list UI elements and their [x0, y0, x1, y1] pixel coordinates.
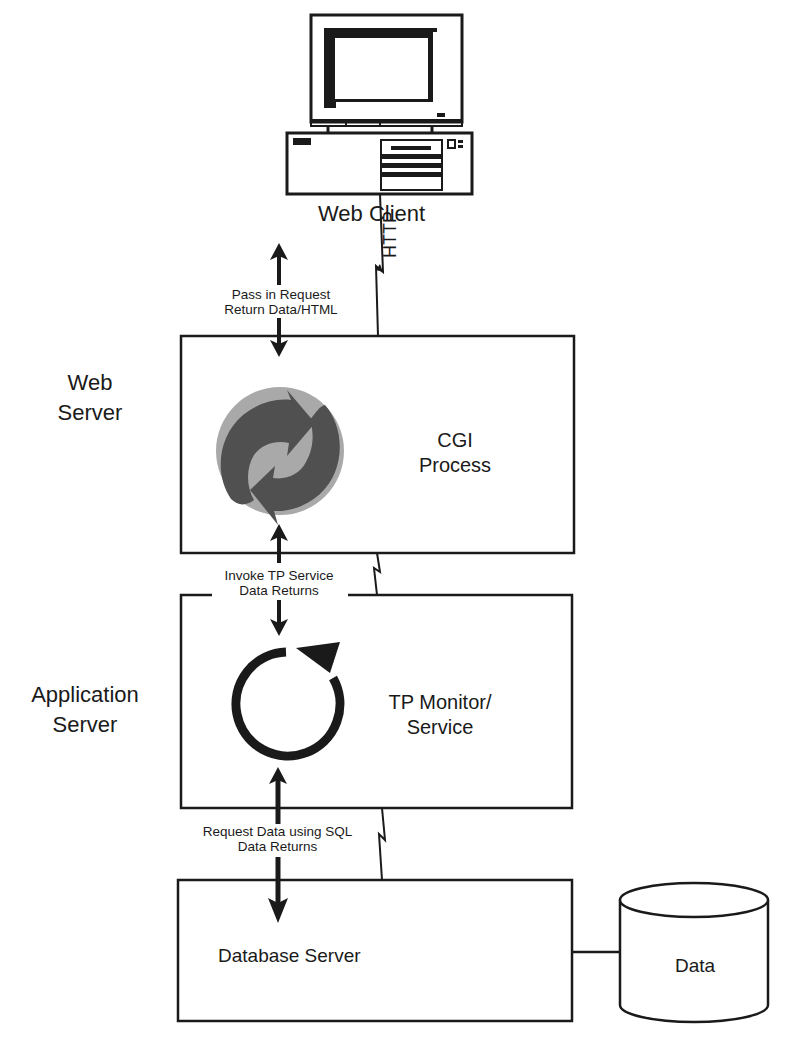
- web-server-side-label-line1: Web: [30, 368, 150, 398]
- app-to-db-link-line: [379, 808, 385, 880]
- cgi-process-label-line2: Process: [400, 453, 510, 478]
- architecture-diagram: [0, 0, 794, 1044]
- http-label: HTTP: [380, 198, 400, 258]
- connection-label-web-app-line1: Invoke TP Service: [213, 568, 345, 583]
- connection-label-web-app-line2: Data Returns: [213, 583, 345, 598]
- application-server-side-label-line1: Application: [10, 680, 160, 710]
- web-server-side-label: Web Server: [30, 368, 150, 427]
- connection-label-web-app: Invoke TP Service Data Returns: [213, 568, 345, 598]
- data-store-label: Data: [660, 955, 730, 976]
- tp-monitor-label: TP Monitor/ Service: [375, 690, 505, 740]
- connection-label-app-db-line1: Request Data using SQL: [190, 824, 365, 839]
- tp-monitor-label-line2: Service: [375, 715, 505, 740]
- cgi-process-label-line1: CGI: [400, 428, 510, 453]
- circular-loop-arrow-icon: [236, 642, 340, 756]
- web-client-label: Web Client: [318, 202, 425, 227]
- web-to-app-link-line: [374, 553, 380, 595]
- recycle-arrows-icon: [216, 387, 344, 525]
- cgi-process-label: CGI Process: [400, 428, 510, 478]
- connection-label-app-db: Request Data using SQL Data Returns: [190, 824, 365, 854]
- application-server-side-label-line2: Server: [10, 710, 160, 740]
- database-cylinder-icon: [572, 883, 768, 1022]
- web-server-side-label-line2: Server: [30, 398, 150, 428]
- tp-monitor-label-line1: TP Monitor/: [375, 690, 505, 715]
- connection-label-client-web-line2: Return Data/HTML: [222, 302, 340, 317]
- application-server-side-label: Application Server: [10, 680, 160, 739]
- database-server-label: Database Server: [218, 945, 361, 966]
- connection-label-client-web-line1: Pass in Request: [222, 287, 340, 302]
- connection-label-app-db-line2: Data Returns: [190, 839, 365, 854]
- connection-label-client-web: Pass in Request Return Data/HTML: [222, 287, 340, 317]
- desktop-computer-icon: [287, 15, 472, 194]
